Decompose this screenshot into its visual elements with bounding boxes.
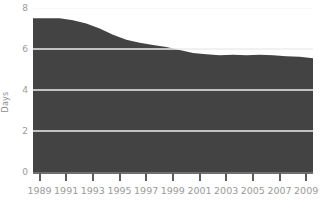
x-axis-tick-labels: 1989199119931995199719992001200320052007… bbox=[0, 0, 322, 203]
x-axis-tick-label: 1991 bbox=[54, 186, 78, 196]
x-axis-tick-label: 2003 bbox=[214, 186, 238, 196]
x-axis-tick-label: 2009 bbox=[294, 186, 318, 196]
x-axis-tick-label: 1997 bbox=[134, 186, 158, 196]
x-axis-tick-label: 1989 bbox=[27, 186, 51, 196]
x-axis-tick-label: 2005 bbox=[241, 186, 265, 196]
area-chart: Days 02468 19891991199319951997199920012… bbox=[0, 0, 322, 203]
x-axis-tick-label: 1995 bbox=[107, 186, 131, 196]
x-axis-tick-label: 1993 bbox=[81, 186, 105, 196]
x-axis-tick-label: 2007 bbox=[267, 186, 291, 196]
x-axis-tick-label: 2001 bbox=[187, 186, 211, 196]
x-axis-tick-label: 1999 bbox=[161, 186, 185, 196]
